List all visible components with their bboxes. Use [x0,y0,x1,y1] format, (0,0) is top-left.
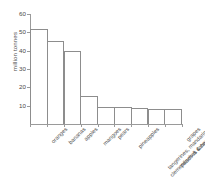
bar [131,108,149,124]
x-tick-mark [182,124,183,127]
x-axis-label-line: pineapples [137,126,161,150]
x-axis-label: oranges [50,126,69,145]
y-tick-label: 40 [19,48,26,54]
x-axis-line [30,124,182,125]
bar [148,109,166,124]
plot-area: 102030405060 [30,14,182,124]
bar [164,109,182,124]
x-axis-labels: orangesbananasapplesmangoespearspineappl… [30,126,182,190]
bar [80,96,98,124]
bar [97,107,115,124]
y-tick-label: 30 [19,66,26,72]
bar [64,51,82,124]
y-tick-label: 50 [19,29,26,35]
x-axis-label: pineapples [137,126,161,150]
bar-chart: million tonnes 102030405060 orangesbanan… [0,0,205,190]
bar [47,41,65,124]
bar-series [30,14,182,124]
y-axis-title: million tonnes [11,17,18,87]
bar [30,29,48,124]
y-tick-label: 60 [19,11,26,17]
y-tick-label: 20 [19,84,26,90]
y-tick-label: 10 [19,103,26,109]
bar [114,107,132,124]
x-axis-label-line: oranges [50,126,69,145]
